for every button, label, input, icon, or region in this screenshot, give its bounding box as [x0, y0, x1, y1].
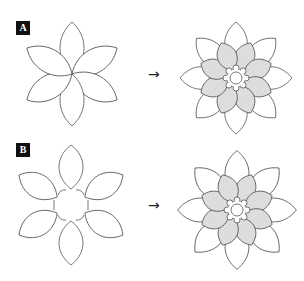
flower-a-left: [21, 22, 123, 126]
flower-b-right: [178, 151, 297, 270]
flower-a-right: [180, 22, 292, 134]
flower-b-left: [13, 145, 129, 265]
flower-diagrams: [0, 0, 304, 281]
cog-center-b: [224, 197, 250, 223]
cog-center-a: [223, 65, 249, 91]
